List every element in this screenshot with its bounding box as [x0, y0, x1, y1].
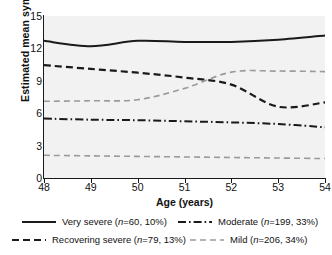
legend-label: Moderate (n=199, 33%) [218, 216, 318, 227]
y-tick-label: 6 [20, 108, 42, 118]
x-tick-mark [325, 179, 326, 183]
plot-area [44, 16, 325, 178]
y-tick-label: 12 [20, 43, 42, 53]
y-axis-line [43, 15, 44, 179]
figure: Estimated mean symptom score 03691215 48… [0, 0, 332, 255]
series-lines [44, 16, 325, 178]
legend-item[interactable]: Mild (n=206, 34%) [190, 234, 307, 245]
series-line-moderate [44, 119, 325, 128]
legend-item[interactable]: Very severe (n=60, 10%) [22, 216, 167, 227]
legend: Very severe (n=60, 10%)Recovering severe… [0, 214, 332, 255]
x-axis-tick-labels: 48495051525354 [0, 181, 332, 195]
x-axis-title: Age (years) [44, 196, 325, 208]
y-tick-label: 15 [20, 11, 42, 21]
legend-line-swatch [12, 235, 46, 245]
x-tick-label: 54 [313, 181, 332, 193]
x-tick-mark [44, 179, 45, 183]
legend-line-swatch [190, 235, 224, 245]
x-tick-mark [231, 179, 232, 183]
legend-item[interactable]: Moderate (n=199, 33%) [178, 216, 318, 227]
legend-item[interactable]: Recovering severe (n=79, 13%) [12, 234, 186, 245]
legend-label: Mild (n=206, 34%) [230, 234, 307, 245]
y-tick-label: 3 [20, 141, 42, 151]
y-tick-label: 9 [20, 76, 42, 86]
series-line-recovered [44, 155, 325, 158]
legend-label: Very severe (n=60, 10%) [62, 216, 167, 227]
x-tick-mark [138, 179, 139, 183]
x-tick-mark [278, 179, 279, 183]
x-tick-mark [91, 179, 92, 183]
series-line-mild [44, 71, 325, 102]
x-tick-mark [185, 179, 186, 183]
series-line-very-severe [44, 35, 325, 46]
legend-line-swatch [178, 217, 212, 227]
legend-line-swatch [22, 217, 56, 227]
legend-label: Recovering severe (n=79, 13%) [52, 234, 186, 245]
